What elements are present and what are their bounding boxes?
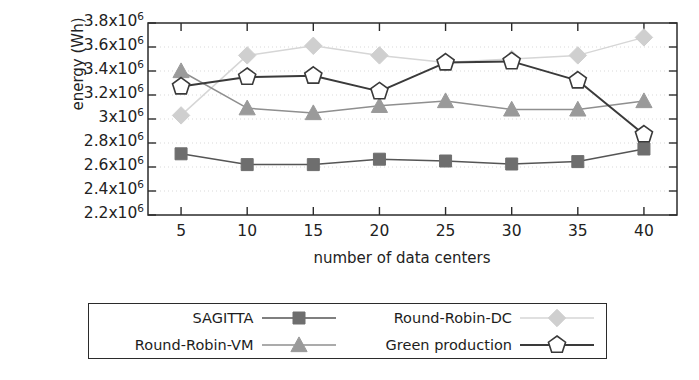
data-point-round-robin-dc: [569, 47, 586, 64]
legend-sample-triangle: [260, 335, 338, 355]
y-axis-tick-label: 2.4x106: [54, 182, 144, 198]
data-point-round-robin-dc: [635, 29, 652, 46]
legend-item: Round-Robin-DC: [348, 308, 607, 328]
data-point-sagitta: [373, 153, 385, 165]
data-point-green-production: [437, 54, 454, 70]
y-axis-tick-label: 3.8x106: [54, 14, 144, 30]
legend-sample-diamond: [518, 308, 596, 328]
y-axis-tick-label: 2.2x106: [54, 206, 144, 222]
legend-label: Round-Robin-DC: [394, 310, 512, 326]
data-point-green-production: [305, 67, 322, 83]
legend-sample-square: [260, 308, 338, 328]
legend-label: Round-Robin-VM: [135, 337, 254, 353]
x-axis-tick-label: 25: [426, 222, 466, 240]
x-axis-tick-label: 15: [293, 222, 333, 240]
legend-item: Round-Robin-VM: [89, 335, 348, 355]
y-axis-tick-labels: 2.2x1062.4x1062.6x1062.8x1063x1063.2x106…: [48, 0, 144, 240]
data-point-green-production: [635, 126, 652, 142]
data-point-round-robin-dc: [305, 37, 322, 54]
data-point-round-robin-vm: [437, 93, 453, 108]
data-point-sagitta: [506, 158, 518, 170]
data-point-sagitta: [241, 159, 253, 171]
data-point-sagitta: [175, 148, 187, 160]
legend-sample-pentagon-open: [518, 335, 596, 355]
data-point-round-robin-vm: [173, 63, 189, 78]
data-point-sagitta: [638, 143, 650, 155]
y-axis-tick-label: 3.6x106: [54, 38, 144, 54]
legend: SAGITTARound-Robin-DCRound-Robin-VMGreen…: [88, 303, 607, 359]
x-axis-tick-label: 30: [492, 222, 532, 240]
data-point-sagitta: [307, 159, 319, 171]
data-point-round-robin-vm: [636, 93, 652, 108]
data-point-round-robin-dc: [371, 47, 388, 64]
data-point-green-production: [239, 68, 256, 84]
x-axis-tick-label: 40: [624, 222, 664, 240]
y-axis-tick-label: 2.8x106: [54, 134, 144, 150]
y-axis-tick-label: 3.4x106: [54, 62, 144, 78]
y-axis-tick-label: 3.2x106: [54, 86, 144, 102]
data-point-sagitta: [572, 156, 584, 168]
legend-label: SAGITTA: [193, 310, 254, 326]
x-axis-tick-label: 35: [558, 222, 598, 240]
energy-line-chart: energy (Wh) 2.2x1062.4x1062.6x1062.8x106…: [0, 0, 699, 380]
legend-item: SAGITTA: [89, 308, 348, 328]
data-point-green-production: [371, 82, 388, 98]
data-point-round-robin-vm: [239, 100, 255, 115]
legend-item: Green production: [348, 335, 607, 355]
x-axis-tick-label: 5: [161, 222, 201, 240]
data-point-green-production: [503, 52, 520, 68]
y-axis-tick-label: 3x106: [54, 110, 144, 126]
x-axis-tick-label: 10: [227, 222, 267, 240]
y-axis-tick-label: 2.6x106: [54, 158, 144, 174]
legend-label: Green production: [386, 337, 512, 353]
data-point-sagitta: [440, 155, 452, 167]
data-point-green-production: [569, 72, 586, 88]
x-axis-title: number of data centers: [148, 249, 656, 267]
data-point-green-production: [173, 78, 190, 94]
x-axis-tick-label: 20: [359, 222, 399, 240]
